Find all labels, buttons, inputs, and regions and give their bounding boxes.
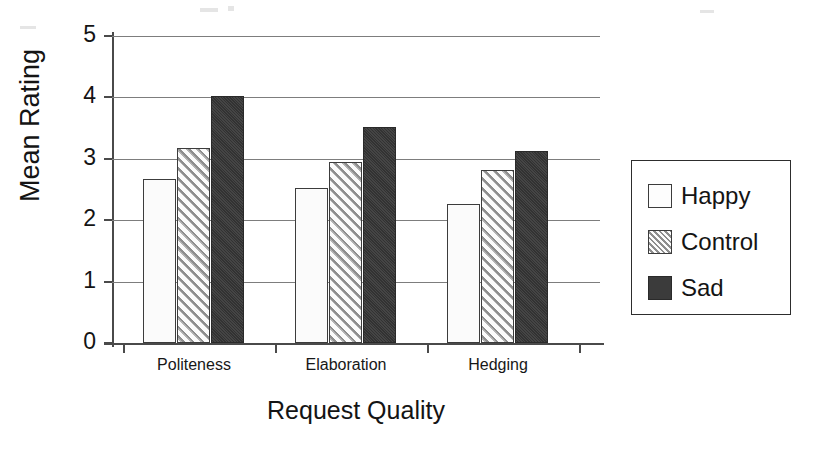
scan-artifact [228, 6, 234, 11]
x-axis-tick [275, 344, 277, 353]
bar-control-politeness [177, 148, 210, 343]
gridline [112, 36, 600, 37]
plot-area [112, 36, 600, 343]
bar-control-hedging [481, 170, 514, 343]
bar-control-elaboration [329, 162, 362, 343]
bar-chart-figure: Mean Rating 543210 PolitenessElaboration… [0, 0, 821, 451]
scan-artifact [20, 26, 36, 29]
x-axis-tick [579, 344, 581, 353]
legend-item-label: Happy [681, 182, 750, 210]
white-square-icon [648, 184, 672, 208]
legend-item-label: Sad [681, 274, 724, 302]
hatched-square-icon [648, 230, 672, 254]
scan-artifact [700, 10, 714, 13]
legend-item-label: Control [681, 228, 758, 256]
legend: HappyControlSad [631, 160, 791, 315]
bar-sad-politeness [211, 96, 244, 343]
y-axis-tick-label: 5 [56, 23, 96, 46]
y-axis-tick-label: 4 [56, 84, 96, 107]
scan-artifact [200, 8, 218, 12]
y-axis-tick-label: 0 [56, 330, 96, 353]
x-axis-title: Request Quality [112, 396, 600, 425]
bar-sad-hedging [515, 151, 548, 343]
y-axis-title: Mean Rating [15, 26, 46, 226]
bar-happy-hedging [447, 204, 480, 343]
y-axis-tick-label: 3 [56, 146, 96, 169]
x-axis-line [104, 343, 604, 345]
legend-item-sad[interactable]: Sad [648, 271, 724, 305]
dark-square-icon [648, 276, 672, 300]
x-axis-tick-label-hedging: Hedging [418, 356, 578, 374]
x-axis-tick [427, 344, 429, 353]
bar-happy-politeness [143, 179, 176, 343]
y-axis-tick-label: 1 [56, 269, 96, 292]
legend-item-control[interactable]: Control [648, 225, 758, 259]
gridline [112, 97, 600, 98]
x-axis-tick-label-politeness: Politeness [114, 356, 274, 374]
y-axis-tick-label: 2 [56, 207, 96, 230]
bar-happy-elaboration [295, 188, 328, 343]
x-axis-tick-label-elaboration: Elaboration [266, 356, 426, 374]
x-axis-tick [123, 344, 125, 353]
bar-sad-elaboration [363, 127, 396, 343]
legend-item-happy[interactable]: Happy [648, 179, 750, 213]
